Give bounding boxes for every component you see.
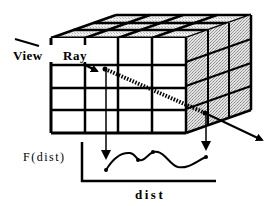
function-graph xyxy=(81,142,216,182)
view-ray-origin-line xyxy=(15,39,39,46)
x-axis-label: dist xyxy=(135,187,165,203)
ray-label: Ray xyxy=(63,48,87,64)
view-label: View xyxy=(13,48,43,64)
volume-ray-casting-diagram xyxy=(0,0,279,206)
function-curve xyxy=(106,152,206,170)
y-axis-label: F(dist) xyxy=(23,150,66,165)
